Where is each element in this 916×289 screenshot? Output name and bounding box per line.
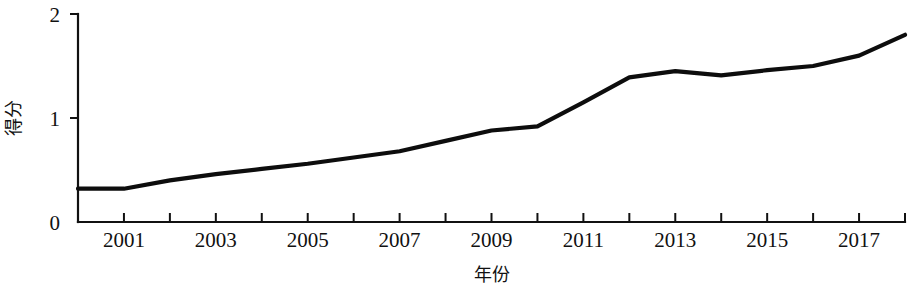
chart-canvas: 012 200120032005200720092011201320152017… xyxy=(0,0,916,289)
y-tick-label: 1 xyxy=(50,107,61,131)
data-series-group xyxy=(78,35,905,189)
x-tick-label: 2015 xyxy=(746,228,788,252)
x-tick-label: 2005 xyxy=(287,228,329,252)
y-axis-title: 得分 xyxy=(3,100,24,136)
axes xyxy=(78,14,905,222)
y-tick-label: 2 xyxy=(50,3,61,27)
x-tick-label: 2017 xyxy=(838,228,880,252)
y-tick-label: 0 xyxy=(50,211,61,235)
x-axis-title: 年份 xyxy=(474,264,510,285)
y-axis-ticks xyxy=(70,14,78,118)
x-tick-label: 2007 xyxy=(379,228,421,252)
data-line-score xyxy=(78,35,905,189)
x-tick-label: 2001 xyxy=(103,228,145,252)
x-axis-ticks xyxy=(78,213,905,222)
line-chart: 012 200120032005200720092011201320152017… xyxy=(0,0,916,289)
x-tick-label: 2009 xyxy=(471,228,513,252)
x-tick-label: 2013 xyxy=(654,228,696,252)
x-axis-tick-labels: 200120032005200720092011201320152017 xyxy=(103,228,880,252)
x-tick-label: 2003 xyxy=(195,228,237,252)
x-tick-label: 2011 xyxy=(563,228,604,252)
y-axis-tick-labels: 012 xyxy=(50,3,61,235)
